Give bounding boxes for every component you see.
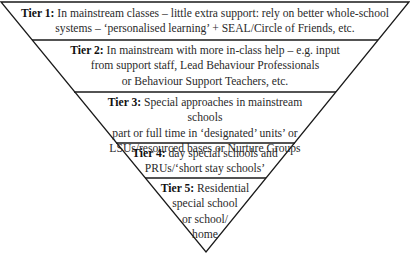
tier-5: Tier 5: Residential special school or sc… — [145, 181, 265, 243]
tier-1-line-2: systems – ‘personalised learning’ + SEAL… — [20, 21, 390, 36]
tier-3-line-2: part or full time in ‘designated’ units’… — [95, 126, 315, 141]
tier-1: Tier 1: In mainstream classes – little e… — [20, 6, 390, 37]
tier-2: Tier 2: In mainstream with more in-class… — [60, 43, 350, 89]
tier-3-label: Tier 3: — [108, 96, 141, 109]
tier-5-line-3: or school/ — [145, 212, 265, 227]
tier-5-label: Tier 5: — [161, 182, 194, 195]
tier-2-label: Tier 2: — [70, 44, 103, 57]
tier-2-line-1: In mainstream with more in-class help – … — [107, 44, 340, 57]
tier-2-line-3: or Behaviour Support Teachers, etc. — [60, 74, 350, 89]
tier-5-line-1: Residential — [197, 182, 249, 195]
tier-4-label: Tier 4: — [132, 147, 165, 160]
tier-1-label: Tier 1: — [21, 7, 54, 20]
tier-2-line-2: from support staff, Lead Behaviour Profe… — [60, 58, 350, 73]
tier-4-line-2: PRUs/‘short stay schools’ — [125, 161, 285, 176]
tier-4-line-1: day special schools and — [169, 147, 278, 160]
tier-5-line-2: special school — [145, 196, 265, 211]
tier-1-line-1: In mainstream classes – little extra sup… — [57, 7, 389, 20]
tier-5-line-4: home — [145, 227, 265, 242]
tier-4: Tier 4: day special schools and PRUs/‘sh… — [125, 146, 285, 177]
tier-3-line-1: Special approaches in mainstream schools — [144, 96, 302, 124]
